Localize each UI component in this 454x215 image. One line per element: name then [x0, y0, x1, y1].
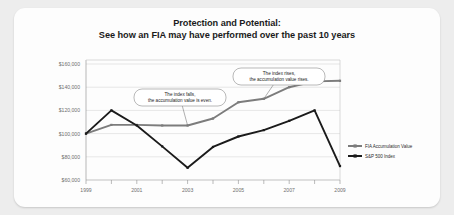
- series-marker: [212, 117, 214, 119]
- annotation-line-1: The index rises,: [263, 71, 295, 76]
- series-marker: [161, 124, 163, 126]
- annotation-line-1: The index falls,: [165, 92, 196, 97]
- legend-label: S&P 500 Index: [365, 154, 396, 159]
- x-axis-tick-label: 2009: [334, 187, 345, 193]
- chart-title-line-2: See how an FIA may have performed over t…: [14, 29, 440, 41]
- series-marker: [110, 109, 112, 111]
- y-axis-tick-labels: $60,000$80,000$100,000$120,000$140,000$1…: [59, 61, 80, 183]
- series-marker: [263, 129, 265, 131]
- x-axis-ticks: [86, 180, 340, 184]
- screenshot-root: Protection and Potential: See how an FIA…: [0, 0, 454, 215]
- x-axis-tick-label: 2001: [131, 187, 142, 193]
- line-chart-svg: $60,000$80,000$100,000$120,000$140,000$1…: [14, 58, 440, 207]
- x-axis-tick-labels: 199920012003200520072009: [80, 187, 345, 193]
- chart-card: Protection and Potential: See how an FIA…: [14, 8, 440, 207]
- series-marker: [110, 124, 112, 126]
- x-axis-tick-label: 2007: [284, 187, 295, 193]
- series-marker: [187, 167, 189, 169]
- series-marker: [212, 146, 214, 148]
- legend-label: FIA Accumulation Value: [365, 144, 413, 149]
- annotation-line-2: the accumulation value rises.: [249, 77, 308, 82]
- series-marker: [288, 86, 290, 88]
- series-marker: [136, 124, 138, 126]
- chart-plot-area: $60,000$80,000$100,000$120,000$140,000$1…: [14, 58, 440, 207]
- series-marker: [237, 135, 239, 137]
- x-axis-tick-label: 2005: [233, 187, 244, 193]
- chart-legend: FIA Accumulation ValueS&P 500 Index: [348, 144, 413, 159]
- series-marker: [314, 109, 316, 111]
- x-axis-tick-label: 2003: [182, 187, 193, 193]
- legend-swatch-marker: [354, 154, 357, 157]
- annotation-line-2: the accumulation value is even.: [148, 98, 212, 103]
- series-marker: [85, 133, 87, 135]
- series-marker: [288, 120, 290, 122]
- chart-title-line-1: Protection and Potential:: [14, 17, 440, 29]
- series-marker: [237, 101, 239, 103]
- y-axis-tick-label: $100,000: [59, 131, 80, 137]
- annotations-group: The index falls,the accumulation value i…: [134, 68, 325, 125]
- chart-title-block: Protection and Potential: See how an FIA…: [14, 17, 440, 42]
- y-axis-tick-label: $80,000: [62, 154, 81, 160]
- y-axis-tick-label: $160,000: [59, 61, 80, 67]
- series-marker: [339, 165, 341, 167]
- series-marker: [339, 80, 341, 82]
- series-marker: [161, 145, 163, 147]
- y-axis-tick-label: $60,000: [62, 177, 81, 183]
- x-axis-tick-label: 1999: [80, 187, 91, 193]
- legend-swatch-marker: [354, 144, 357, 147]
- y-axis-tick-label: $140,000: [59, 84, 80, 90]
- y-axis-tick-label: $120,000: [59, 107, 80, 113]
